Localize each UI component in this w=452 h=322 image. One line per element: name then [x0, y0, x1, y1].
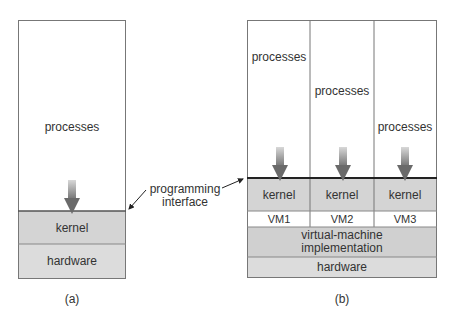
- kernel-label: kernel: [19, 221, 125, 235]
- hardware-label-b: hardware: [248, 260, 436, 274]
- vm3-processes: processes: [374, 120, 436, 134]
- vm3-kernel: kernel: [374, 188, 436, 202]
- vm3-label: VM3: [374, 213, 436, 225]
- vm1-label: VM1: [248, 213, 310, 225]
- caption-a: (a): [19, 292, 125, 306]
- vm-implementation-label: virtual-machineimplementation: [248, 229, 436, 255]
- processes-label: processes: [19, 120, 125, 134]
- vm1-kernel: kernel: [248, 188, 310, 202]
- hardware-label: hardware: [19, 254, 125, 268]
- caption-b: (b): [248, 292, 436, 306]
- vm1-processes: processes: [248, 50, 310, 64]
- programming-interface-label: programminginterface: [140, 183, 230, 209]
- vm2-label: VM2: [310, 213, 374, 225]
- vm2-kernel: kernel: [310, 188, 374, 202]
- vm2-processes: processes: [310, 84, 374, 98]
